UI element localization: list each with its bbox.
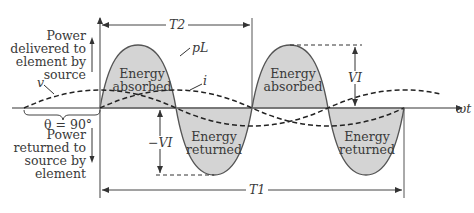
omega-t-label: ωt bbox=[456, 102, 471, 115]
pl-label: pL bbox=[192, 41, 208, 54]
voltage-label: v bbox=[37, 76, 44, 89]
label-line: absorbed bbox=[112, 80, 172, 93]
energy-returned-label-2: Energy returned bbox=[337, 130, 397, 156]
vi-label: VI bbox=[348, 71, 362, 84]
neg-vi-label: −VI bbox=[148, 136, 172, 149]
energy-absorbed-label-2: Energy absorbed bbox=[263, 67, 323, 93]
power-diagram: Power delivered to element by source Pow… bbox=[0, 0, 474, 213]
label-line: absorbed bbox=[263, 80, 323, 93]
current-label: i bbox=[203, 74, 207, 87]
theta-label: θ = 90° bbox=[44, 118, 92, 131]
label-line: returned bbox=[184, 143, 244, 156]
t2-label: T2 bbox=[166, 18, 188, 31]
label-line: element bbox=[2, 167, 86, 180]
power-returned-label: Power returned to source by element bbox=[2, 128, 86, 180]
t1-label: T1 bbox=[246, 183, 268, 196]
power-delivered-label: Power delivered to element by source bbox=[2, 29, 86, 81]
label-line: returned bbox=[337, 143, 397, 156]
energy-returned-label-1: Energy returned bbox=[184, 130, 244, 156]
energy-absorbed-label-1: Energy absorbed bbox=[112, 67, 172, 93]
